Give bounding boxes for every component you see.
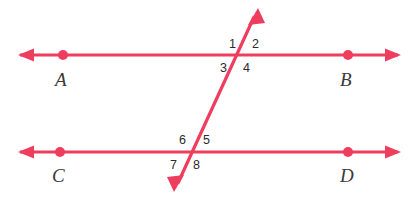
angle-label-3: 3	[220, 62, 227, 75]
transversal-group	[167, 8, 265, 192]
angle-label-5: 5	[203, 134, 210, 147]
point-d-dot	[343, 147, 353, 157]
line-cd-left-arrowhead	[18, 146, 34, 159]
point-b-dot	[343, 50, 353, 60]
angle-label-4: 4	[243, 62, 250, 75]
point-a-dot	[58, 50, 68, 60]
point-label-d: D	[340, 166, 354, 185]
transversal-top-arrowhead	[248, 8, 265, 25]
geometry-figure: 1 2 3 4 6 5 7 8 A B C D	[0, 0, 416, 197]
angle-label-2: 2	[252, 38, 259, 51]
angle-label-6: 6	[179, 134, 186, 147]
point-label-c: C	[52, 166, 65, 185]
line-cd-group	[18, 146, 401, 159]
transversal-bottom-arrowhead	[167, 175, 184, 192]
angle-label-8: 8	[193, 159, 200, 172]
angle-label-7: 7	[170, 159, 177, 172]
line-cd-right-arrowhead	[385, 146, 401, 159]
point-c-dot	[55, 147, 65, 157]
point-label-a: A	[55, 70, 67, 89]
line-ab-right-arrowhead	[385, 49, 401, 62]
angle-label-1: 1	[229, 38, 236, 51]
point-label-b: B	[340, 70, 352, 89]
line-ab-left-arrowhead	[18, 49, 34, 62]
transversal-segment	[178, 17, 254, 183]
line-ab-group	[18, 49, 401, 62]
